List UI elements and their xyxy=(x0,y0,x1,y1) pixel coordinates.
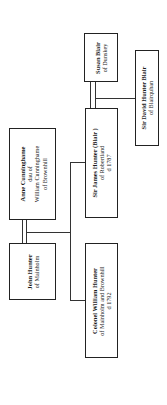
marriage-line-john-anne-a xyxy=(22,220,23,243)
person-box-sir-david-hunter-blair[interactable]: Sir David Hunter Blair of Blairquhan xyxy=(135,50,159,146)
person-name: John Hunter xyxy=(25,254,32,289)
person-detail: of Dunskey xyxy=(101,42,108,74)
person-detail: dau of xyxy=(25,146,32,202)
person-box-colonel-william-hunter[interactable]: Colonel William Hunter of Mainholm and B… xyxy=(85,243,118,358)
person-detail: of Mainholm xyxy=(33,254,40,289)
person-name: Sir David Hunter Blair xyxy=(140,67,147,130)
person-detail: William Cunninghame xyxy=(33,146,40,202)
person-name: Susan Blair xyxy=(94,42,101,74)
person-detail: d 1787 xyxy=(105,128,112,197)
person-detail: of Blairquhan xyxy=(147,67,154,130)
person-detail: of Brownhill xyxy=(40,146,47,202)
person-detail: of Mainholm and Brownhill xyxy=(98,266,105,336)
child-line-david xyxy=(95,98,135,99)
person-box-susan-blair[interactable]: Susan Blair of Dunskey xyxy=(84,33,118,82)
person-detail: of Robertland xyxy=(98,128,105,197)
person-box-sir-james-hunter-blair[interactable]: Sir James Hunter (Blair ) of Robertland … xyxy=(85,108,118,218)
marriage-line-james-susan-a xyxy=(90,82,91,108)
person-name: Sir James Hunter (Blair ) xyxy=(91,128,98,197)
child-line-james xyxy=(70,162,85,163)
marriage-line-james-susan-b xyxy=(95,82,96,108)
person-name: Anne Cunninghame xyxy=(18,146,25,202)
person-box-anne-cunninghame[interactable]: Anne Cunninghame dau of William Cunningh… xyxy=(9,128,56,220)
person-box-john-hunter[interactable]: John Hunter of Mainholm xyxy=(9,243,56,300)
descent-line-horizontal xyxy=(26,232,71,233)
sibling-line-vertical xyxy=(70,162,71,301)
person-detail: d 1792 xyxy=(105,266,112,336)
child-line-william xyxy=(70,300,85,301)
person-name: Colonel William Hunter xyxy=(91,266,98,336)
